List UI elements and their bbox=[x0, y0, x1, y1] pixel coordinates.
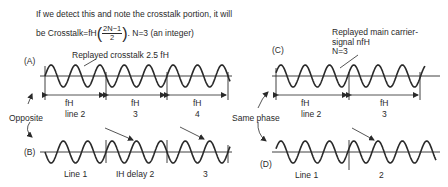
same-phase-arrow-down bbox=[258, 122, 266, 141]
opposite-arrow-up bbox=[28, 94, 32, 104]
same-phase-arrow-up bbox=[258, 92, 268, 108]
opposite-arrow-down bbox=[27, 122, 32, 137]
waveform-diagram bbox=[0, 0, 448, 187]
